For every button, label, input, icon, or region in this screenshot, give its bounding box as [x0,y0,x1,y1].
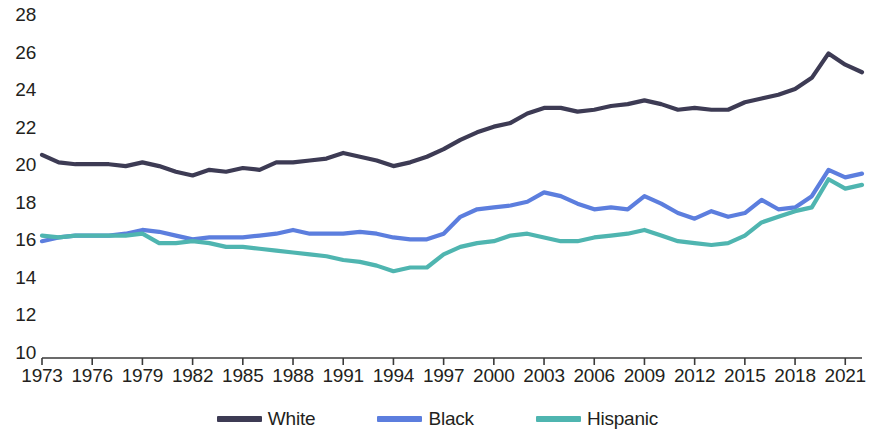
y-axis-tick-label: 18 [2,193,36,212]
x-axis-labels: 1973197619791982198519881991199419972000… [0,365,875,395]
legend-label-white: White [268,409,316,428]
y-axis-tick-label: 10 [2,343,36,362]
legend-swatch-white [217,416,262,422]
y-axis-tick-label: 22 [2,118,36,137]
legend-swatch-hispanic [536,416,581,422]
series-line-black [42,170,862,241]
legend-label-hispanic: Hispanic [587,409,658,428]
series-line-white [42,53,862,175]
x-axis [42,358,862,365]
legend-swatch-black [377,416,422,422]
y-axis-tick-label: 14 [2,268,36,287]
legend-item-white[interactable]: White [217,409,316,428]
y-axis-tick-label: 12 [2,305,36,324]
legend-item-hispanic[interactable]: Hispanic [536,409,658,428]
y-axis-tick-label: 28 [2,5,36,24]
y-axis-tick-label: 20 [2,155,36,174]
chart-series-group [42,53,862,271]
y-axis-tick-label: 24 [2,80,36,99]
x-axis-tick-label: 2021 [815,365,875,387]
legend-item-black[interactable]: Black [377,409,473,428]
legend-label-black: Black [428,409,473,428]
y-axis-tick-label: 26 [2,43,36,62]
line-chart: 28262422201816141210 1973197619791982198… [0,0,875,434]
chart-legend: WhiteBlackHispanic [0,403,875,434]
y-axis-tick-label: 16 [2,230,36,249]
